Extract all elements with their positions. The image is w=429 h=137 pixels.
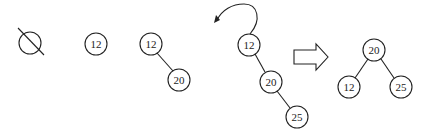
node-label: 20	[266, 76, 278, 88]
edge	[255, 54, 265, 72]
edge	[381, 59, 394, 78]
node-label: 20	[369, 44, 381, 56]
node-label: 25	[396, 81, 408, 93]
node-label: 12	[146, 38, 157, 50]
transform-arrow-icon	[294, 44, 328, 70]
edge	[157, 53, 173, 71]
node-label: 12	[344, 81, 355, 93]
edge	[355, 59, 368, 78]
node-label: 20	[174, 74, 186, 86]
node-label: 12	[244, 39, 255, 51]
node-label: 25	[292, 111, 304, 123]
node-label: 12	[91, 38, 102, 50]
empty-set-icon	[18, 28, 44, 55]
rotation-arrow-icon	[217, 4, 257, 34]
edge	[277, 91, 290, 108]
avl-rotation-diagram: 12 12 20 12 20 25 20 12 25	[0, 0, 429, 137]
